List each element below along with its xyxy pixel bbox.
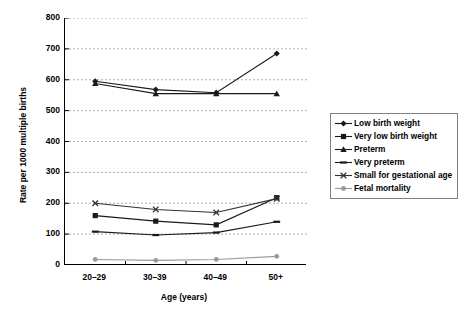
legend-item-label: Fetal mortality	[354, 183, 411, 194]
data-point-dash-marker	[340, 161, 347, 163]
legend-item[interactable]: Preterm	[334, 143, 452, 156]
legend-item-label: Very low birth weight	[354, 131, 437, 142]
y-tick-label: 800	[26, 13, 60, 22]
legend-circle-marker-icon	[334, 183, 353, 194]
data-point-circle-marker	[153, 258, 158, 263]
series-line	[95, 256, 277, 260]
x-axis-title: Age (years)	[62, 292, 306, 302]
data-point-dash-marker	[213, 231, 220, 233]
legend-diamond-marker-icon	[334, 118, 353, 129]
legend-item-label: Small for gestational age	[354, 170, 452, 181]
y-tick-label: 300	[26, 167, 60, 176]
legend-item[interactable]: Very preterm	[334, 156, 452, 169]
data-point-circle-marker	[341, 186, 346, 191]
legend-cross-marker-icon	[334, 170, 353, 181]
y-tick-label: 700	[26, 44, 60, 53]
plot-area	[64, 18, 306, 265]
x-tick-label: 50+	[236, 272, 316, 282]
legend-item-label: Preterm	[354, 144, 385, 155]
legend-item-label: Very preterm	[354, 157, 405, 168]
legend-dash-marker-icon	[334, 157, 353, 168]
data-point-circle-marker	[93, 257, 98, 262]
y-axis-tick-labels: 0100200300400500600700800	[22, 0, 60, 265]
data-point-dash-marker	[92, 231, 99, 233]
legend-item[interactable]: Very low birth weight	[334, 130, 452, 143]
data-point-dash-marker	[273, 221, 280, 223]
series-line	[95, 54, 277, 93]
data-point-square-marker	[93, 213, 98, 218]
data-point-circle-marker	[274, 254, 279, 259]
y-tick-label: 100	[26, 229, 60, 238]
data-point-circle-marker	[214, 257, 219, 262]
y-tick-label: 200	[26, 198, 60, 207]
data-point-square-marker	[214, 222, 219, 227]
y-tick-label: 400	[26, 137, 60, 146]
chart-legend: Low birth weightVery low birth weightPre…	[330, 113, 458, 199]
series-line	[95, 222, 277, 235]
line-chart: Rate per 1000 multiple births 0100200300…	[0, 0, 468, 309]
legend-item[interactable]: Fetal mortality	[334, 182, 452, 195]
data-point-dash-marker	[152, 234, 159, 236]
y-tick-label: 500	[26, 106, 60, 115]
y-tick-label: 600	[26, 75, 60, 84]
data-point-diamond-marker	[274, 50, 280, 56]
legend-item-label: Low birth weight	[354, 118, 420, 129]
legend-item[interactable]: Small for gestational age	[334, 169, 452, 182]
data-point-square-marker	[341, 134, 346, 139]
data-point-square-marker	[153, 219, 158, 224]
legend-triangle-marker-icon	[334, 144, 353, 155]
y-tick-label: 0	[26, 260, 60, 269]
plot-svg	[65, 18, 307, 265]
legend-item[interactable]: Low birth weight	[334, 117, 452, 130]
data-point-diamond-marker	[340, 120, 346, 126]
legend-square-marker-icon	[334, 131, 353, 142]
